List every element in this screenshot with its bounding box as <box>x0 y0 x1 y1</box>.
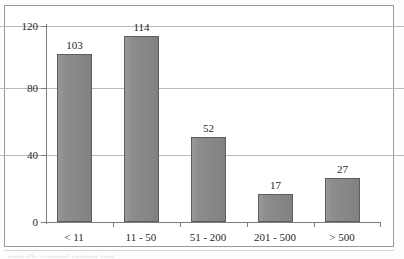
bar-201-500 <box>258 194 293 222</box>
bar-11-50 <box>124 36 159 222</box>
bar-value-lt-11: 103 <box>52 40 97 51</box>
x-axis-label-lt-11: < 11 <box>50 231 98 243</box>
bar-value-11-50: 114 <box>119 22 164 33</box>
bar-value-gt-500: 27 <box>320 164 365 175</box>
y-tick-label-80: 80 <box>0 83 38 94</box>
bar-value-201-500: 17 <box>253 180 298 191</box>
y-tick-mark-40 <box>41 155 46 156</box>
bar-value-51-200: 52 <box>186 123 231 134</box>
x-axis-label-gt-500: > 500 <box>318 231 366 243</box>
bar-chart-figure: 120 80 40 0 103 114 52 17 27 < 11 11 - 5… <box>0 0 404 259</box>
bar-shading <box>125 37 158 221</box>
x-tick-mark-3 <box>247 222 248 227</box>
x-axis-label-51-200: 51 - 200 <box>184 231 232 243</box>
bar-51-200 <box>191 137 226 222</box>
y-tick-label-0: 0 <box>0 217 38 228</box>
x-tick-mark-1 <box>113 222 114 227</box>
bar-lt-11 <box>57 54 92 222</box>
y-tick-mark-120 <box>41 26 46 27</box>
bar-shading <box>58 55 91 221</box>
x-tick-mark-5 <box>380 222 381 227</box>
x-axis-line <box>46 222 380 223</box>
bar-shading <box>259 195 292 221</box>
gridline-120 <box>0 26 404 27</box>
x-axis-label-201-500: 201 - 500 <box>251 231 299 243</box>
y-tick-mark-0 <box>41 222 46 223</box>
y-tick-label-120: 120 <box>0 21 38 32</box>
y-tick-mark-80 <box>41 88 46 89</box>
cropped-caption-sliver: partially cropped caption text <box>8 252 396 258</box>
x-tick-mark-2 <box>180 222 181 227</box>
bar-gt-500 <box>325 178 360 222</box>
x-axis-label-11-50: 11 - 50 <box>117 231 165 243</box>
y-tick-label-40: 40 <box>0 150 38 161</box>
page-rule <box>4 250 394 251</box>
bar-shading <box>326 179 359 221</box>
bar-shading <box>192 138 225 221</box>
y-axis-line <box>46 24 47 224</box>
x-tick-mark-4 <box>314 222 315 227</box>
